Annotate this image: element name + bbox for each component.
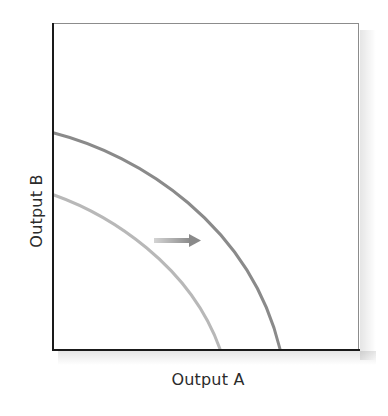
curves-layer xyxy=(0,0,388,416)
y-axis-line xyxy=(52,23,54,351)
shift-arrow-icon xyxy=(154,234,201,247)
original-frontier-curve xyxy=(54,195,220,349)
y-axis-label: Output B xyxy=(27,174,46,247)
x-axis-label: Output A xyxy=(150,370,266,389)
x-axis-line xyxy=(52,349,360,351)
ppf-shift-diagram: Output A Output B xyxy=(0,0,388,416)
